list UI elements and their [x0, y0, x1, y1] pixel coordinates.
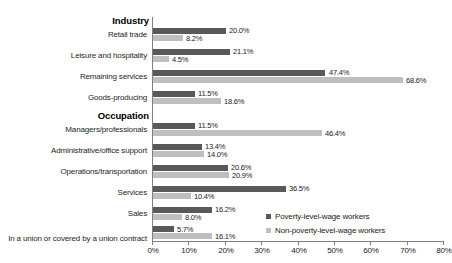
legend-item-non-poverty-level-wage-workers[interactable]: Non-poverty-level-wage workers	[266, 223, 385, 237]
bar-value-non-poverty-leisure-and-hospitality: 4.5%	[172, 55, 188, 64]
x-axis-tick-40	[298, 241, 299, 245]
x-axis-tick-label-30: 30%	[254, 246, 269, 255]
bar-poverty-administrative-office-support	[153, 144, 202, 150]
bar-value-poverty-services: 36.5%	[289, 184, 309, 193]
bar-value-poverty-sales: 16.2%	[215, 205, 235, 214]
bar-poverty-sales	[153, 207, 212, 213]
bar-poverty-managers-professionals	[153, 123, 195, 129]
bar-poverty-services	[153, 186, 286, 192]
x-axis-tick-70	[407, 241, 408, 245]
category-label-administrative-office-support: Administrative/office support	[51, 146, 147, 155]
bar-non-poverty-administrative-office-support	[153, 151, 204, 157]
bar-value-non-poverty-sales: 8.0%	[185, 213, 201, 222]
category-label-sales: Sales	[128, 209, 147, 218]
x-axis-tick-80	[443, 241, 444, 245]
bar-poverty-operations-transportation	[153, 165, 228, 171]
category-label-retail-trade: Retail trade	[108, 30, 147, 39]
bar-value-poverty-remaining-services: 47.4%	[329, 68, 349, 77]
legend-label-poverty: Poverty-level-wage workers	[275, 212, 369, 221]
category-label-operations-transportation: Operations/transportation	[60, 167, 147, 176]
x-axis-tick-label-60: 60%	[363, 246, 378, 255]
horizontal-bar-chart: 0% 10% 20% 30% 40% 50% 60% 70% 80% Indus…	[0, 0, 452, 263]
bar-value-non-poverty-goods-producing: 18.6%	[224, 97, 244, 106]
bar-non-poverty-leisure-and-hospitality	[153, 56, 169, 62]
bar-poverty-leisure-and-hospitality	[153, 49, 230, 55]
bar-value-non-poverty-services: 10.4%	[194, 192, 214, 201]
bar-poverty-goods-producing	[153, 91, 195, 97]
bar-non-poverty-managers-professionals	[153, 130, 322, 136]
bar-non-poverty-operations-transportation	[153, 172, 229, 178]
legend-label-non-poverty: Non-poverty-level-wage workers	[275, 226, 385, 235]
category-label-services: Services	[118, 188, 147, 197]
bar-value-poverty-managers-professionals: 11.5%	[198, 121, 218, 130]
x-axis-tick-60	[370, 241, 371, 245]
bar-poverty-union-contract	[153, 226, 174, 232]
x-axis-tick-30	[261, 241, 262, 245]
x-axis-tick-label-10: 10%	[181, 246, 196, 255]
bar-non-poverty-union-contract	[153, 233, 212, 239]
x-axis-tick-0	[152, 241, 153, 245]
x-axis-tick-label-70: 70%	[400, 246, 415, 255]
legend-swatch-icon-poverty	[266, 214, 271, 219]
bar-non-poverty-goods-producing	[153, 98, 221, 104]
bar-value-poverty-leisure-and-hospitality: 21.1%	[233, 47, 253, 56]
chart-legend: Poverty-level-wage workers Non-poverty-l…	[266, 209, 385, 237]
legend-item-poverty-level-wage-workers[interactable]: Poverty-level-wage workers	[266, 209, 385, 223]
x-axis-tick-20	[225, 241, 226, 245]
bar-value-non-poverty-managers-professionals: 46.4%	[325, 129, 345, 138]
bar-value-non-poverty-retail-trade: 8.2%	[186, 34, 202, 43]
bar-value-non-poverty-union-contract: 16.1%	[215, 232, 235, 241]
bar-non-poverty-remaining-services	[153, 77, 403, 83]
x-axis-tick-label-20: 20%	[218, 246, 233, 255]
bar-value-poverty-retail-trade: 20.0%	[229, 26, 249, 35]
x-axis-tick-label-80: 80%	[436, 246, 451, 255]
x-axis-tick-label-40: 40%	[291, 246, 306, 255]
bar-non-poverty-sales	[153, 214, 182, 220]
x-axis-tick-50	[334, 241, 335, 245]
x-axis-tick-label-0: 0%	[147, 246, 158, 255]
category-label-managers-professionals: Managers/professionals	[65, 125, 147, 134]
bar-non-poverty-retail-trade	[153, 35, 183, 41]
category-label-remaining-services: Remaining services	[80, 72, 147, 81]
bar-value-non-poverty-administrative-office-support: 14.0%	[207, 150, 227, 159]
category-label-goods-producing: Goods-producing	[88, 93, 147, 102]
section-header-occupation: Occupation	[98, 110, 149, 121]
bar-value-non-poverty-remaining-services: 68.6%	[406, 76, 426, 85]
category-label-leisure-and-hospitality: Leisure and hospitality	[71, 51, 147, 60]
x-axis-tick-label-50: 50%	[327, 246, 342, 255]
category-label-union-contract: In a union or covered by a union contrac…	[8, 234, 147, 243]
bar-poverty-remaining-services	[153, 70, 325, 76]
bar-non-poverty-services	[153, 193, 191, 199]
bar-value-non-poverty-operations-transportation: 20.9%	[232, 171, 252, 180]
section-header-industry: Industry	[112, 15, 149, 26]
x-axis-tick-10	[188, 241, 189, 245]
legend-swatch-icon-non-poverty	[266, 228, 271, 233]
bar-value-poverty-goods-producing: 11.5%	[198, 89, 218, 98]
